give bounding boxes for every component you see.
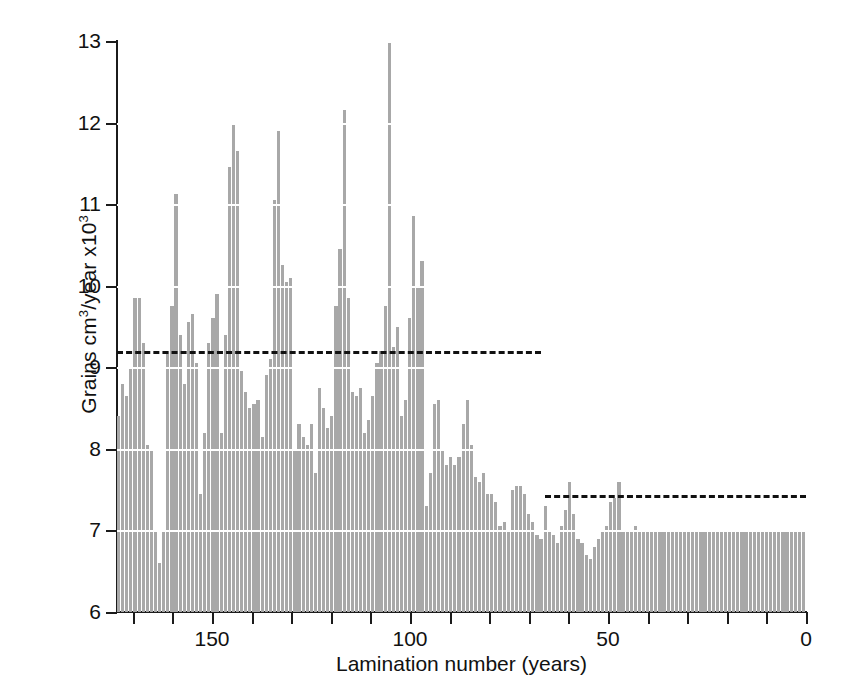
x-tick [608,612,610,624]
x-axis-label: Lamination number (years) [117,652,806,676]
bar [343,110,346,612]
bar [162,530,165,612]
bar [297,424,300,612]
bar [195,363,198,612]
bar [736,530,739,612]
bar [621,530,624,612]
bar [462,424,465,612]
bar [654,530,657,612]
bar [117,416,120,612]
y-tick-label: 11 [61,193,101,214]
bar [224,335,227,612]
bar [757,530,760,612]
bar [396,327,399,613]
x-tick [687,612,689,624]
bar [519,486,522,612]
bar [523,494,526,612]
bar [470,445,473,612]
bar [359,388,362,612]
bar [371,396,374,612]
y-tick-label: 13 [61,30,101,51]
y-axis-label-mid: /year x10 [77,223,100,310]
bar [248,408,251,612]
gridline [117,286,806,288]
y-axis-label-sup2: 3 [76,215,91,222]
bar [281,265,284,612]
x-tick [648,612,650,624]
bar [798,530,801,612]
bar [679,530,682,612]
bar [613,498,616,612]
bar [667,530,670,612]
x-tick [727,612,729,624]
bar [544,506,547,612]
bar [338,249,341,612]
bar [531,522,534,612]
bar [703,530,706,612]
bar [154,530,157,612]
bar [650,530,653,612]
bar [408,318,411,612]
bar [310,424,313,612]
bar [773,530,776,612]
bar [732,530,735,612]
bar [392,347,395,612]
bar [453,465,456,612]
bar [634,526,637,612]
gridline [117,204,806,206]
bar [593,547,596,612]
bar [671,530,674,612]
bar [597,539,600,612]
bar [228,167,231,612]
x-tick-label: 100 [380,628,440,649]
x-tick [489,612,491,624]
bar [585,555,588,612]
y-tick [106,367,117,369]
bar [494,502,497,612]
bar [552,535,555,612]
y-tick [106,204,117,206]
bar [425,506,428,612]
x-tick [410,612,412,624]
plot-area: 678910111213 150100500 [117,41,806,612]
bar [744,530,747,612]
bar [445,465,448,612]
bar [695,530,698,612]
bar [720,530,723,612]
bar [347,298,350,612]
y-axis-label-sup1: 3 [76,310,91,317]
bar [790,530,793,612]
y-tick [106,41,117,43]
x-tick-label: 150 [182,628,242,649]
y-tick-label: 9 [61,356,101,377]
bar [273,200,276,612]
bar [498,526,501,612]
bar [642,530,645,612]
bar [277,131,280,612]
gridline [117,123,806,125]
bar [646,530,649,612]
x-tick [529,612,531,624]
bar [769,530,772,612]
x-tick [291,612,293,624]
bar [302,437,305,612]
bar [638,530,641,612]
bar [515,486,518,612]
bar [306,445,309,612]
bar [478,482,481,613]
x-tick [133,612,135,624]
y-tick [106,286,117,288]
bar [560,526,563,612]
bar [568,482,571,613]
bar [125,396,128,612]
x-tick [568,612,570,624]
bar [187,322,190,612]
bar [420,261,423,612]
bar [437,400,440,612]
bar [781,530,784,612]
bar [490,494,493,612]
bar [761,530,764,612]
bar [482,473,485,612]
bar [355,396,358,612]
bar [658,530,661,612]
